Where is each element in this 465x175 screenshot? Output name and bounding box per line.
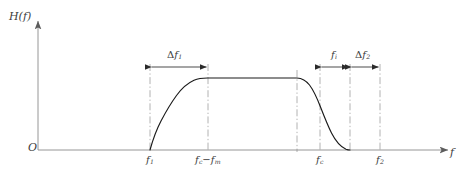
y-axis-label-text: H(f) [9,10,31,23]
filter-response-figure: H(f) O f f1 fc−fm fc f2 Δf1 fi Δf2 [0,0,465,175]
y-axis-label: H(f) [9,11,31,22]
tick-label-f1-sub: 1 [150,158,154,165]
tick-label-fc: fc [316,155,323,166]
tick-label-f1: f1 [146,155,154,166]
x-axis-label: f [450,147,454,158]
plot-canvas [0,0,465,175]
origin-label: O [28,142,37,153]
tick-label-f2-sub: 2 [380,158,384,165]
tick-label-fc-sub: c [320,158,324,165]
annotation-label-fi: fi [331,50,337,61]
origin-label-text: O [28,141,37,154]
annotation-label-delta-f1-sub: 1 [178,53,182,60]
annotation-label-delta-f2: Δf2 [355,50,370,61]
tick-label-fc-minus-fm-sub2: m [214,158,220,165]
tick-label-f2: f2 [376,155,384,166]
annotation-label-delta-f2-sub: 2 [366,53,370,60]
axes [38,21,448,150]
annotation-label-delta-f1: Δf1 [167,50,182,61]
tick-label-fc-minus-fm-operator: − [202,154,210,165]
guide-lines [150,64,380,152]
x-axis-label-text: f [450,146,454,159]
tick-label-fc-minus-fm: fc−fm [195,155,221,166]
annotation-label-fi-sub: i [335,53,337,60]
